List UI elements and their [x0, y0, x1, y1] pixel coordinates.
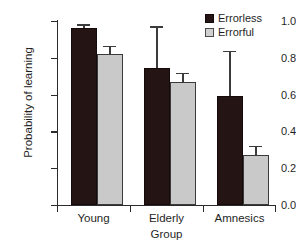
figure-bar-chart: Errorless Errorful Probability of learni…: [0, 0, 296, 250]
errorbar-cap-young-errorless: [77, 24, 90, 25]
x-axis-line: [57, 205, 276, 206]
bar-amnesics-errorful: [243, 155, 269, 205]
x-axis-title: Group: [57, 228, 276, 241]
errorbar-stem-amnesics-errorful: [255, 147, 256, 155]
errorbar-cap-elderly-errorless: [150, 26, 163, 27]
errorbar-stem-young-errorless: [83, 26, 84, 29]
errorbar-cap-young-errorful: [103, 46, 116, 47]
bar-young-errorful: [97, 54, 123, 205]
bar-young-errorless: [71, 28, 97, 205]
x-category-label-elderly: Elderly: [130, 212, 203, 225]
errorbar-cap-amnesics-errorless: [223, 51, 236, 52]
errorbar-stem-elderly-errorful: [182, 74, 183, 81]
errorbar-stem-elderly-errorless: [156, 28, 157, 68]
errorbar-cap-elderly-errorful: [176, 73, 189, 74]
errorbar-stem-amnesics-errorless: [229, 52, 230, 96]
bar-elderly-errorful: [170, 82, 196, 205]
y-axis-title: Probability of learning: [22, 23, 35, 183]
x-category-label-amnesics: Amnesics: [203, 212, 276, 225]
x-category-label-young: Young: [57, 212, 130, 225]
bar-elderly-errorless: [144, 68, 170, 205]
bar-amnesics-errorless: [217, 96, 243, 205]
errorbar-cap-amnesics-errorful: [249, 146, 262, 147]
errorbar-stem-young-errorful: [109, 47, 110, 54]
plot-area: [57, 21, 275, 205]
